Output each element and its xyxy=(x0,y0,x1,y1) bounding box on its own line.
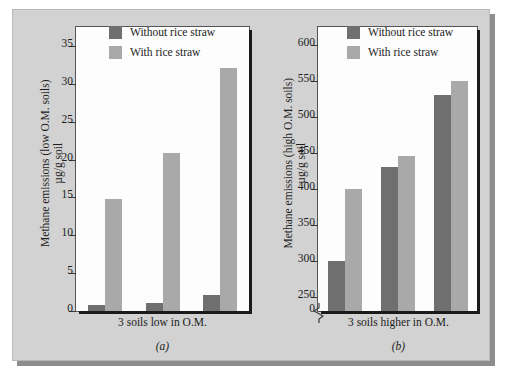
panel-b: Methane emissions (high O.M. soils) µg/g… xyxy=(259,10,491,362)
y-axis-tick-label: 5 xyxy=(67,265,73,277)
bar xyxy=(105,199,122,311)
y-axis-tick-label: 450 xyxy=(298,145,315,157)
figure-plate: Methane emissions (low O.M. soils) µg/g … xyxy=(12,9,490,361)
y-axis-tick-label: 400 xyxy=(298,181,315,193)
legend-swatch-dark-icon xyxy=(109,26,122,39)
panel-b-y-axis-title-line2: µg/g soil xyxy=(295,63,308,263)
bar xyxy=(381,167,398,311)
y-axis-tick-label: 25 xyxy=(62,114,74,126)
y-axis-tick-label: 20 xyxy=(62,152,74,164)
legend-item-without-rice-straw: Without rice straw xyxy=(347,26,453,39)
y-axis-tick-label: 30 xyxy=(62,76,74,88)
panel-a-plot-inner: 05101520253035 xyxy=(76,27,249,311)
bar xyxy=(345,189,362,311)
y-axis-tick-label: 10 xyxy=(62,227,74,239)
panel-a-y-axis-title-line1: Methane emissions (low O.M. soils) xyxy=(39,63,52,263)
panel-b-tag: (b) xyxy=(311,340,486,352)
panel-b-plot-inner: 2503003504004505005506000 xyxy=(318,27,477,311)
figure-root: Methane emissions (low O.M. soils) µg/g … xyxy=(0,0,508,388)
panel-b-y-axis-title-line1: Methane emissions (high O.M. soils) xyxy=(282,63,295,263)
panel-b-x-axis-title: 3 soils higher in O.M. xyxy=(311,316,486,328)
bar xyxy=(88,305,105,311)
panel-a-plot-area: 05101520253035 xyxy=(75,26,250,312)
y-axis-tick-label: 600 xyxy=(298,37,315,49)
panel-b-plot-area: 2503003504004505005506000 xyxy=(317,26,478,312)
bar xyxy=(398,156,415,311)
legend-label-without-rice-straw: Without rice straw xyxy=(130,27,215,39)
panel-b-y-axis-title: Methane emissions (high O.M. soils) µg/g… xyxy=(282,63,308,263)
bar xyxy=(203,295,220,311)
legend-item-with-rice-straw: With rice straw xyxy=(347,46,453,59)
panel-b-legend: Without rice straw With rice straw xyxy=(347,26,453,66)
panel-a-tag: (a) xyxy=(75,340,250,352)
y-axis-tick-label: 250 xyxy=(298,289,315,301)
y-axis-tick-label: 15 xyxy=(62,189,74,201)
y-axis-tick-label: 550 xyxy=(298,73,315,85)
legend-swatch-light-icon xyxy=(347,46,360,59)
y-axis-tick-label: 500 xyxy=(298,109,315,121)
panel-a-legend: Without rice straw With rice straw xyxy=(109,26,215,66)
legend-item-without-rice-straw: Without rice straw xyxy=(109,26,215,39)
legend-swatch-light-icon xyxy=(109,46,122,59)
bar xyxy=(146,303,163,311)
bar xyxy=(451,81,468,311)
legend-item-with-rice-straw: With rice straw xyxy=(109,46,215,59)
y-axis-tick-label: 35 xyxy=(62,38,74,50)
y-axis-tick-label: 300 xyxy=(298,253,315,265)
legend-label-with-rice-straw: With rice straw xyxy=(368,47,438,59)
bar xyxy=(220,68,237,311)
bar xyxy=(434,95,451,311)
y-axis-tick-label: 0 xyxy=(67,303,73,315)
y-axis-tick-label: 350 xyxy=(298,217,315,229)
legend-label-without-rice-straw: Without rice straw xyxy=(368,27,453,39)
panel-a-x-axis-title: 3 soils low in O.M. xyxy=(75,316,250,328)
legend-label-with-rice-straw: With rice straw xyxy=(130,47,200,59)
bar xyxy=(163,153,180,311)
legend-swatch-dark-icon xyxy=(347,26,360,39)
panel-a: Methane emissions (low O.M. soils) µg/g … xyxy=(13,10,259,362)
bar xyxy=(328,261,345,311)
